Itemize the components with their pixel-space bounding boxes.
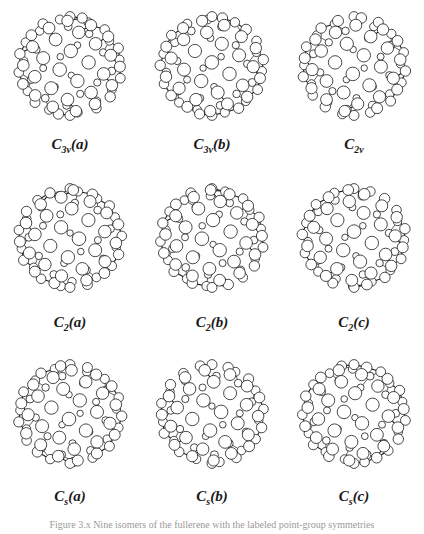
molecule-c2v: [284, 4, 424, 134]
molecule-c2-b: [142, 176, 282, 306]
isomer-label-cs-a: Cs(a): [0, 488, 140, 507]
isomer-label-c2-b: C2(b): [142, 314, 282, 333]
isomer-label-c2v: C2v: [284, 136, 424, 155]
isomer-label-c3v-a: C3v(a): [0, 136, 140, 155]
isomer-label-c2-a: C2(a): [0, 314, 140, 333]
isomer-label-c2-c: C2(c): [284, 314, 424, 333]
isomer-label-c3v-b: C3v(b): [142, 136, 282, 155]
molecule-cs-c: [284, 352, 424, 482]
figure-caption: Figure 3.x Nine isomers of the fullerene…: [0, 519, 424, 530]
molecule-cs-b: [142, 352, 282, 482]
molecule-c3v-a: [0, 4, 140, 134]
isomer-label-cs-c: Cs(c): [284, 488, 424, 507]
molecule-c2-c: [284, 176, 424, 306]
isomer-label-cs-b: Cs(b): [142, 488, 282, 507]
molecule-c2-a: [0, 176, 140, 306]
molecule-c3v-b: [142, 4, 282, 134]
molecule-cs-a: [0, 352, 140, 482]
